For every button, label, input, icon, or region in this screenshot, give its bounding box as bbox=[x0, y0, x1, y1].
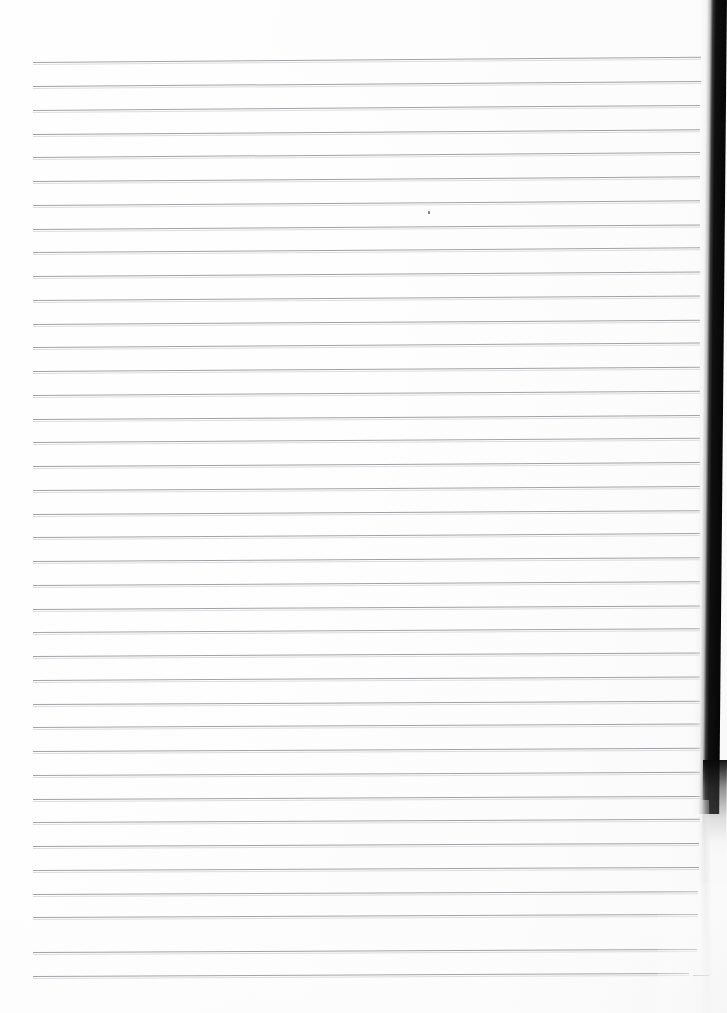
rule-line bbox=[33, 438, 700, 443]
rule-line bbox=[33, 510, 700, 515]
rule-line bbox=[33, 748, 700, 752]
rule-line bbox=[33, 343, 700, 348]
rule-line bbox=[33, 581, 700, 586]
rule-line bbox=[33, 462, 700, 467]
rule-line bbox=[33, 677, 700, 681]
rule-line bbox=[33, 867, 699, 871]
rule-line bbox=[33, 415, 700, 420]
rule-line bbox=[33, 272, 700, 277]
rule-line bbox=[33, 819, 700, 823]
rule-line bbox=[33, 152, 700, 158]
rule-line bbox=[33, 973, 689, 977]
rule-line bbox=[33, 486, 700, 491]
rule-line bbox=[33, 391, 700, 396]
rule-line bbox=[33, 914, 698, 918]
rule-line bbox=[33, 225, 700, 230]
rule-line bbox=[33, 843, 699, 847]
scanned-page bbox=[0, 0, 727, 1013]
rule-line bbox=[33, 796, 700, 800]
rule-line bbox=[33, 200, 700, 206]
rule-line bbox=[33, 772, 700, 776]
rule-line bbox=[33, 81, 701, 87]
ink-speck-artifact bbox=[428, 211, 430, 214]
rule-line bbox=[33, 653, 700, 657]
ruled-lines-layer bbox=[0, 0, 727, 1013]
rule-line bbox=[33, 949, 697, 953]
rule-line bbox=[33, 176, 700, 182]
rule-line bbox=[33, 57, 701, 63]
rule-line bbox=[33, 296, 700, 301]
rule-line bbox=[33, 701, 700, 705]
rule-line bbox=[33, 606, 700, 610]
rule-line bbox=[33, 533, 700, 538]
rule-line bbox=[33, 724, 700, 728]
rule-line bbox=[33, 628, 700, 633]
rule-line bbox=[33, 367, 700, 372]
edge-dash-artifact bbox=[693, 975, 709, 976]
rule-line bbox=[33, 105, 700, 111]
rule-line bbox=[33, 320, 700, 325]
rule-line bbox=[33, 891, 698, 895]
rule-line bbox=[33, 129, 700, 135]
rule-line bbox=[33, 247, 700, 253]
rule-line bbox=[33, 557, 700, 562]
